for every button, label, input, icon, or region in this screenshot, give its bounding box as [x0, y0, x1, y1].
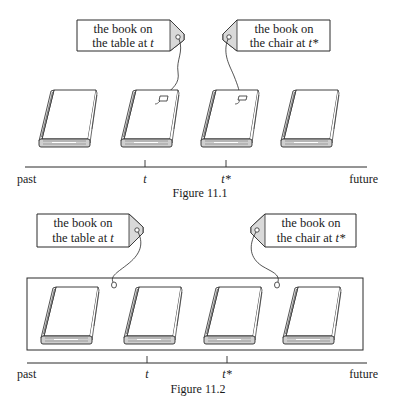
tag-hole-icon	[227, 35, 231, 39]
tag-line1: the book on	[281, 216, 341, 230]
book	[283, 287, 341, 344]
tag-book-on-chair: the book on the chair at t*	[251, 214, 356, 288]
timeline-start-label: past	[17, 367, 37, 381]
timeline-start-label: past	[17, 172, 37, 186]
string-knot-icon	[275, 282, 280, 288]
tag-hole-icon	[255, 228, 259, 232]
book	[39, 90, 97, 147]
figure-11-2: the book on the table at t the book on t…	[17, 214, 378, 396]
figure-11-1: the book on the table at t the book on t…	[17, 20, 378, 200]
timeline: past t t* future	[17, 160, 378, 186]
figure-caption: Figure 11.1	[173, 186, 228, 200]
tag-line2: the chair at t*	[250, 36, 319, 50]
timeline-end-label: future	[349, 367, 378, 381]
book-tagged-t	[121, 90, 179, 147]
book	[124, 287, 182, 344]
tag-book-on-table: the book on the table at t	[77, 20, 184, 95]
timeline-tick-t-star: t*	[222, 367, 231, 381]
tag-line1: the book on	[53, 216, 113, 230]
tag-hole-icon	[176, 35, 180, 39]
book	[281, 90, 339, 147]
tag-line2: the table at t	[92, 36, 154, 50]
tag-line1: the book on	[254, 22, 314, 36]
book	[41, 287, 99, 344]
timeline-tick-t: t	[145, 367, 149, 381]
timeline: past t t* future	[17, 356, 378, 381]
tag-hole-icon	[135, 228, 139, 232]
timeline-tick-t: t	[143, 172, 147, 186]
tag-book-on-table: the book on the table at t	[37, 214, 143, 288]
tag-line1: the book on	[93, 22, 153, 36]
timeline-tick-t-star: t*	[221, 172, 230, 186]
figure-caption: Figure 11.2	[171, 382, 226, 396]
tag-line2: the chair at t*	[277, 231, 346, 245]
book	[204, 287, 262, 344]
tag-book-on-chair: the book on the chair at t*	[223, 20, 330, 98]
string-knot-icon	[112, 282, 117, 288]
book-tagged-t-star	[201, 90, 259, 147]
timeline-end-label: future	[349, 172, 378, 186]
diagram-canvas: the book on the table at t the book on t…	[0, 0, 397, 412]
tag-line2: the table at t	[52, 231, 114, 245]
